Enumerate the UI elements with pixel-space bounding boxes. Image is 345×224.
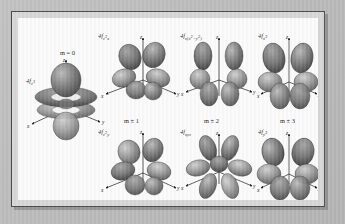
orbital-label-4fxyz: 4fxyz xyxy=(180,128,191,137)
orbital-label-4fx3: 4fx3 xyxy=(258,32,267,41)
axis-label-y: y xyxy=(317,185,318,191)
axis-label-z: z xyxy=(215,34,219,40)
figure-page: m = 0 4fz3 z x y xyxy=(0,0,345,224)
orbital-4fy3: 4fy3 z x y xyxy=(256,126,318,200)
figure-frame: m = 0 4fz3 z x y xyxy=(11,11,325,207)
axis-label-y: y xyxy=(317,91,318,97)
axis-label-x: x xyxy=(180,91,184,97)
axis-label-z: z xyxy=(62,57,66,63)
axis-label-x: x xyxy=(100,93,104,99)
group-label-m2: m ± 2 xyxy=(204,117,219,124)
axis-label-z: z xyxy=(139,129,143,135)
group-label-m1: m ± 1 xyxy=(124,117,139,124)
orbital-4fzx2y2: 4fz(x2−y2) z x y xyxy=(178,28,260,116)
orbital-label-4fz3: 4fz3 xyxy=(26,77,35,86)
orbital-4fz2y: 4fz2y z x y xyxy=(96,126,184,200)
axis-label-x: x xyxy=(100,187,104,193)
figure-plate: m = 0 4fz3 z x y xyxy=(18,18,318,200)
orbital-4fz2x: 4fz2x z x y xyxy=(96,28,184,116)
axis-label-z: z xyxy=(139,34,143,40)
axis-label-x: x xyxy=(256,93,260,99)
orbital-label-4fz2x: 4fz2x xyxy=(98,32,109,41)
axis-label-x: x xyxy=(26,123,30,129)
axis-label-x: x xyxy=(256,187,260,193)
orbital-label-4fz2y: 4fz2y xyxy=(98,128,109,137)
orbital-4fx3: 4fx3 z x y xyxy=(256,28,318,116)
orbital-label-4fzx2y2: 4fz(x2−y2) xyxy=(180,32,202,41)
axis-label-z: z xyxy=(285,130,289,136)
axis-label-z: z xyxy=(285,34,289,40)
group-label-m0: m = 0 xyxy=(60,49,75,56)
axis-label-x: x xyxy=(180,185,184,191)
axis-label-z: z xyxy=(215,130,219,136)
group-label-m3: m ± 3 xyxy=(280,117,295,124)
orbital-4fxyz: 4fxyz z x y xyxy=(178,126,260,200)
orbital-label-4fy3: 4fy3 xyxy=(258,128,267,137)
axis-label-y: y xyxy=(101,119,105,125)
